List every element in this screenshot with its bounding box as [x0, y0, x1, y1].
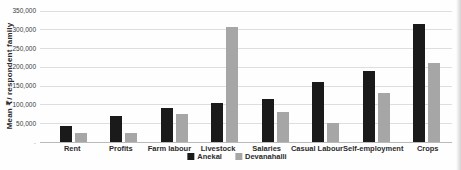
bar-group-livestock	[200, 10, 251, 142]
legend-item-devanahalli: Devanahalli	[235, 152, 287, 161]
bar-anekal-livestock	[211, 103, 223, 142]
bar-groups	[48, 10, 452, 142]
x-category-label-crops: Crops	[403, 144, 452, 153]
bar-group-self-employment	[351, 10, 402, 142]
legend-item-anekal: Anekal	[187, 152, 222, 161]
bar-chart-figure: Mean ₹/ respondent family 350,000300,000…	[0, 0, 461, 170]
bar-anekal-self-employment	[363, 71, 375, 142]
bar-devanahalli-rent	[75, 133, 87, 142]
bar-anekal-profits	[110, 116, 122, 142]
bar-anekal-rent	[60, 126, 72, 142]
x-category-label-casual-labour: Casual Labour	[291, 144, 343, 153]
bar-anekal-crops	[413, 24, 425, 142]
bar-devanahalli-self-employment	[378, 93, 390, 142]
bar-group-crops	[402, 10, 453, 142]
bar-anekal-salaries	[262, 99, 274, 142]
bar-group-profits	[99, 10, 150, 142]
legend-swatch-devanahalli	[235, 153, 242, 160]
bar-anekal-farm-labour	[161, 108, 173, 142]
bar-devanahalli-crops	[428, 63, 440, 142]
bar-devanahalli-farm-labour	[176, 114, 188, 142]
bar-devanahalli-salaries	[277, 112, 289, 142]
legend-label-anekal: Anekal	[197, 152, 222, 161]
bar-group-rent	[48, 10, 99, 142]
x-category-label-profits: Profits	[97, 144, 146, 153]
x-axis-baseline	[40, 142, 452, 143]
bar-group-casual-labour	[301, 10, 352, 142]
bar-anekal-casual-labour	[312, 82, 324, 142]
x-category-label-self-employment: Self-employment	[343, 144, 403, 153]
bar-devanahalli-livestock	[226, 27, 238, 142]
legend: AnekalDevanahalli	[187, 152, 286, 161]
bar-devanahalli-profits	[125, 133, 137, 142]
bar-group-salaries	[250, 10, 301, 142]
bar-devanahalli-casual-labour	[327, 123, 339, 142]
bar-group-farm-labour	[149, 10, 200, 142]
legend-label-devanahalli: Devanahalli	[245, 152, 287, 161]
x-category-label-rent: Rent	[48, 144, 97, 153]
legend-swatch-anekal	[187, 153, 194, 160]
